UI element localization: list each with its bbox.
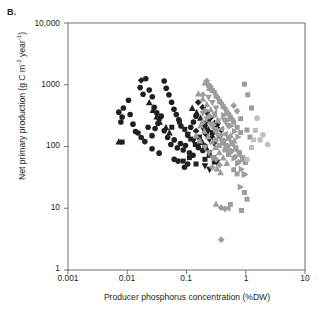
data-point-dark-square xyxy=(182,127,187,132)
data-point-dark-circle xyxy=(161,78,167,84)
data-point-dark-circle xyxy=(156,150,162,156)
data-point-light-gray-square xyxy=(251,137,256,142)
data-point-dark-circle xyxy=(118,119,124,125)
data-point-gray-triangle-up xyxy=(213,200,220,206)
data-point-dark-circle xyxy=(171,137,177,143)
data-point-gray-square xyxy=(235,125,240,130)
data-point-gray-square xyxy=(249,106,254,111)
data-point-dark-circle xyxy=(116,109,122,115)
data-point-dark-circle xyxy=(150,94,156,100)
data-point-gray-triangle-down xyxy=(209,100,216,106)
scatter-plot-canvas xyxy=(0,0,320,311)
data-point-dark-circle xyxy=(175,158,181,164)
data-point-dark-circle xyxy=(178,141,184,147)
data-point-dark-square xyxy=(177,119,182,124)
data-point-dark-circle xyxy=(140,92,146,98)
data-point-dark-triangle-up xyxy=(163,124,170,130)
data-point-gray-triangle-up xyxy=(216,149,223,155)
data-point-gray-square xyxy=(239,208,244,213)
data-point-dark-circle xyxy=(145,124,151,130)
data-points xyxy=(115,76,270,243)
data-point-light-gray-circle xyxy=(254,115,260,121)
data-point-dark-triangle-up xyxy=(146,99,153,105)
data-point-dark-circle xyxy=(142,139,148,145)
data-point-light-gray-circle xyxy=(265,142,271,148)
data-point-dark-circle xyxy=(166,92,172,98)
data-point-light-gray-square xyxy=(253,128,258,133)
data-point-dark-circle xyxy=(149,146,155,152)
data-point-dark-circle xyxy=(126,97,132,103)
data-point-dark-circle xyxy=(168,142,174,148)
data-point-gray-square xyxy=(245,197,250,202)
data-point-gray-square xyxy=(242,82,247,87)
data-point-dark-circle xyxy=(191,119,197,125)
data-point-dark-circle xyxy=(169,99,175,105)
data-point-gray-triangle-right xyxy=(238,184,244,191)
data-point-dark-circle xyxy=(183,143,189,149)
data-point-dark-circle xyxy=(163,85,169,91)
data-point-dark-circle xyxy=(165,135,171,141)
data-point-dark-circle xyxy=(188,124,194,130)
data-point-dark-square xyxy=(187,155,192,160)
data-point-gray-diamond xyxy=(218,236,225,243)
data-point-dark-square xyxy=(194,162,199,167)
data-point-dark-circle xyxy=(149,133,155,139)
data-point-dark-triangle-up xyxy=(189,105,196,111)
data-point-dark-square xyxy=(169,125,174,130)
data-point-gray-square xyxy=(245,92,250,97)
data-point-dark-circle xyxy=(173,112,179,118)
data-point-light-gray-circle xyxy=(260,132,266,138)
data-point-gray-triangle-up xyxy=(223,160,230,166)
data-point-dark-square xyxy=(202,157,207,162)
data-point-gray-square xyxy=(238,130,243,135)
data-point-gray-square xyxy=(242,190,247,195)
data-point-light-gray-circle xyxy=(257,137,263,143)
data-point-light-gray-square xyxy=(245,157,250,162)
figure-panel-b: B. Net primary production (g C m-2 year-… xyxy=(0,0,320,311)
data-point-light-gray-square xyxy=(249,145,254,150)
data-point-gray-triangle-up xyxy=(195,90,202,96)
data-point-dark-square xyxy=(181,159,186,164)
data-point-dark-circle xyxy=(152,126,158,132)
data-point-gray-diamond xyxy=(234,108,241,115)
data-point-dark-circle xyxy=(130,121,136,127)
data-point-gray-diamond xyxy=(230,102,237,109)
data-point-gray-square xyxy=(245,128,250,133)
data-point-dark-circle xyxy=(119,114,125,120)
data-point-dark-circle xyxy=(121,105,127,111)
data-point-gray-square xyxy=(238,116,243,121)
data-point-dark-circle xyxy=(137,85,143,91)
data-point-dark-circle xyxy=(146,87,152,93)
data-point-dark-circle xyxy=(127,112,133,118)
data-point-dark-circle xyxy=(171,107,177,113)
data-point-dark-circle xyxy=(185,161,191,167)
